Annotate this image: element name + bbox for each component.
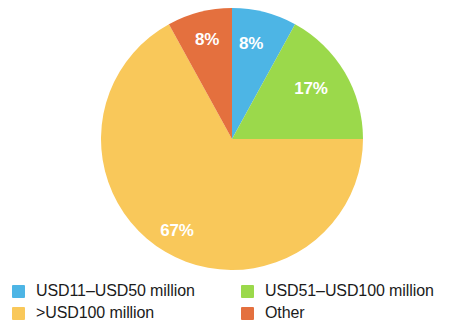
- pie-slice-label-usd11-usd50-million: 8%: [239, 34, 263, 53]
- legend-item-usd51-usd100-million[interactable]: USD51–USD100 million: [241, 280, 434, 302]
- pie-slice-label-other: 8%: [195, 30, 219, 49]
- pie-chart-svg: 8% 17% 67% 8%: [0, 0, 463, 272]
- legend-label-usd51-usd100-million: USD51–USD100 million: [265, 282, 434, 300]
- legend-label-other: Other: [265, 304, 305, 322]
- pie-slice-label-over-usd100-million: 67%: [160, 221, 194, 240]
- legend-swatch-icon-usd11-usd50-million: [12, 285, 25, 298]
- chart-legend: USD11–USD50 million USD51–USD100 million…: [0, 276, 463, 329]
- legend-swatch-icon-usd51-usd100-million: [241, 285, 254, 298]
- legend-row-bottom: >USD100 million Other: [0, 302, 463, 324]
- pie-chart-plot-area: 8% 17% 67% 8%: [0, 0, 463, 272]
- legend-label-over-usd100-million: >USD100 million: [36, 304, 154, 322]
- legend-swatch-icon-other: [241, 307, 254, 320]
- legend-label-usd11-usd50-million: USD11–USD50 million: [36, 282, 195, 300]
- pie-slice-label-usd51-usd100-million: 17%: [294, 79, 328, 98]
- legend-row-top: USD11–USD50 million USD51–USD100 million: [0, 280, 463, 302]
- legend-swatch-icon-over-usd100-million: [12, 307, 25, 320]
- pie-chart-figure: 8% 17% 67% 8% USD11–USD50 million USD51–…: [0, 0, 463, 329]
- legend-item-over-usd100-million[interactable]: >USD100 million: [12, 302, 154, 324]
- legend-item-usd11-usd50-million[interactable]: USD11–USD50 million: [12, 280, 195, 302]
- legend-item-other[interactable]: Other: [241, 302, 305, 324]
